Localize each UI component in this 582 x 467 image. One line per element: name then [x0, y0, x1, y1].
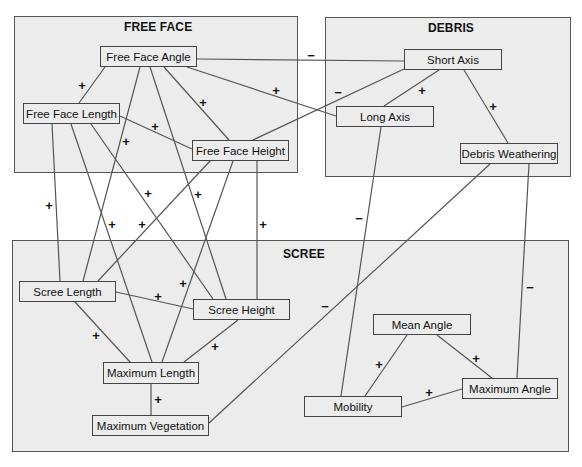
- sign-ffa-short-axis: −: [307, 49, 315, 62]
- sign-ffa-scree-height: +: [194, 188, 202, 201]
- sign-ffa-long-axis: +: [272, 84, 280, 97]
- sign-scree-length-maximum-length: +: [92, 329, 100, 342]
- node-short-axis: Short Axis: [404, 49, 502, 70]
- sign-maximum-length-maximum-vegetation: +: [154, 393, 162, 406]
- node-scree-height: Scree Height: [193, 299, 290, 320]
- node-debris-weathering: Debris Weathering: [460, 143, 558, 164]
- node-maximum-vegetation: Maximum Vegetation: [92, 415, 209, 436]
- node-free-face-angle: Free Face Angle: [100, 46, 197, 67]
- sign-short-axis-long-axis: +: [418, 84, 426, 97]
- sign-scree-height-maximum-length: +: [211, 340, 219, 353]
- node-maximum-length: Maximum Length: [103, 362, 199, 384]
- sign-long-axis-mobility: −: [355, 212, 363, 225]
- sign-ffl-ffh: +: [151, 120, 159, 133]
- node-free-face-length: Free Face Length: [23, 103, 120, 124]
- sign-ffl-scree-length: +: [45, 199, 53, 212]
- sign-scree-length-scree-height: +: [154, 290, 162, 303]
- sign-mean-angle-mobility: +: [375, 358, 383, 371]
- sign-ffh-maximum-length: +: [179, 277, 187, 290]
- sign-debris-weathering-maximum-vegetation: −: [321, 300, 329, 313]
- node-mobility: Mobility: [304, 396, 402, 417]
- sign-ffa-scree-length: +: [122, 135, 130, 148]
- node-mean-angle: Mean Angle: [373, 314, 471, 335]
- node-maximum-angle: Maximum Angle: [462, 378, 558, 399]
- node-long-axis: Long Axis: [336, 106, 434, 127]
- sign-ffa-ffl: +: [78, 79, 86, 92]
- node-free-face-height: Free Face Height: [192, 140, 289, 161]
- sign-debris-weathering-maximum-angle: −: [526, 281, 534, 294]
- sign-ffl-scree-height: +: [144, 187, 152, 200]
- sign-mean-angle-maximum-angle: +: [472, 352, 480, 365]
- node-scree-length: Scree Length: [19, 281, 116, 302]
- sign-short-axis-debris-weathering: +: [489, 100, 497, 113]
- sign-ffh-scree-length: +: [138, 218, 146, 231]
- sign-short-axis-ffh: −: [334, 86, 342, 99]
- sign-ffh-scree-height: +: [259, 218, 267, 231]
- sign-ffa-ffh: +: [199, 96, 207, 109]
- sign-mobility-maximum-angle: +: [425, 386, 433, 399]
- sign-ffl-maximum-length: +: [108, 218, 116, 231]
